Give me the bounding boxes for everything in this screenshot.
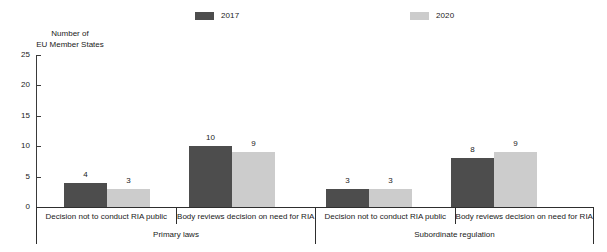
y-tick-label-15: 15 [6,112,30,120]
legend-swatch-2017 [195,12,214,20]
y-tick-label-10: 10 [6,142,30,150]
chart-legend: 20172020 [0,8,607,24]
bar-2017-group2[interactable] [189,146,232,207]
y-tick-mark-20 [37,85,41,86]
bar-2017-group3[interactable] [326,189,369,207]
bar-value-2020-group4: 9 [494,140,537,148]
bar-2017-group4[interactable] [451,158,494,207]
category-cell-2: Body reviews decision on need for RIA [176,207,316,224]
y-tick-mark-10 [37,146,41,147]
y-axis-title: Number of EU Member States [14,29,126,50]
group-label-2: Subordinate regulation [315,224,594,244]
bar-value-2020-group3: 3 [369,177,412,185]
y-tick-mark-25 [37,55,41,56]
bar-value-2020-group2: 9 [232,140,275,148]
y-tick-label-25: 25 [6,51,30,59]
category-label-table: Decision not to conduct RIA publicBody r… [36,207,594,245]
legend-item-2020[interactable]: 2020 [410,8,454,24]
bar-value-2020-group1: 3 [107,177,150,185]
bar-value-2017-group4: 8 [451,146,494,154]
legend-item-2017[interactable]: 2017 [195,8,239,24]
legend-swatch-2020 [410,12,429,20]
bar-value-2017-group1: 4 [64,171,107,179]
legend-label-2017: 2017 [221,11,239,21]
category-cell-4: Body reviews decision on need for RIA [455,207,595,224]
y-axis-title-line1: Number of [14,29,126,40]
bar-2020-group2[interactable] [232,152,275,207]
y-tick-label-5: 5 [6,173,30,181]
bar-value-2017-group3: 3 [326,177,369,185]
bar-2017-group1[interactable] [64,183,107,207]
y-axis-title-line2: EU Member States [14,40,126,51]
bar-2020-group3[interactable] [369,189,412,207]
y-tick-mark-5 [37,177,41,178]
group-label-1: Primary laws [36,224,315,244]
y-tick-mark-15 [37,116,41,117]
plot-area: 0510152025431093389 [36,55,594,207]
y-tick-label-0: 0 [6,203,30,211]
category-cell-1: Decision not to conduct RIA public [36,207,176,224]
category-cell-3: Decision not to conduct RIA public [315,207,455,224]
legend-label-2020: 2020 [436,11,454,21]
bar-value-2017-group2: 10 [189,134,232,142]
y-tick-label-20: 20 [6,81,30,89]
bar-2020-group1[interactable] [107,189,150,207]
bar-2020-group4[interactable] [494,152,537,207]
y-axis-line [36,55,37,207]
